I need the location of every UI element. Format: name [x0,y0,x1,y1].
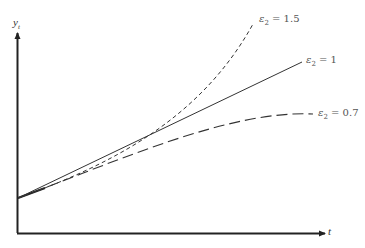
x-axis-label: t [328,225,331,237]
chart-canvas [0,0,365,248]
y-axis-label: yt [13,16,20,31]
series-label-eps-0-7: ε2 = 0.7 [318,107,359,121]
curve-eps-1-5 [18,24,253,198]
curve-eps-1 [18,62,302,198]
curve-eps-0-7 [18,114,313,198]
series-label-eps-1: ε2 = 1 [306,54,337,68]
series-label-eps-1-5: ε2 = 1.5 [259,13,300,27]
